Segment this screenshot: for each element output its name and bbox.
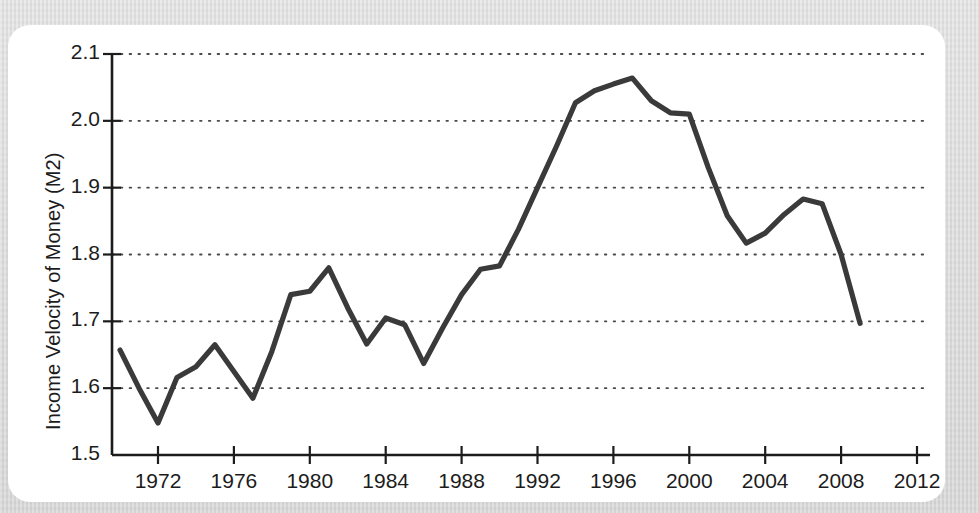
chart-page: Income Velocity of Money (M2) 1.51.61.71…: [0, 0, 979, 513]
y-tick-label: 2.0: [52, 107, 100, 131]
y-tick-label: 2.1: [52, 40, 100, 64]
y-tick-label: 1.6: [52, 374, 100, 398]
velocity-data-line: [120, 78, 860, 423]
x-tick-label: 2012: [872, 469, 962, 493]
y-tick-label: 1.9: [52, 174, 100, 198]
line-chart-plot: [0, 0, 979, 513]
y-tick-label: 1.7: [52, 307, 100, 331]
y-tick-label: 1.8: [52, 241, 100, 265]
y-tick-label: 1.5: [52, 441, 100, 465]
